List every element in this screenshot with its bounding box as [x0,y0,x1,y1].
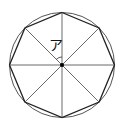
angle-arc [56,57,62,59]
center-point [60,63,64,67]
angle-label: ア [49,37,63,53]
octagon-diagram: ア [0,0,121,123]
